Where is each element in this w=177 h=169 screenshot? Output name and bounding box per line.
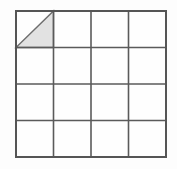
figure-container — [0, 0, 177, 169]
grid-cell — [129, 48, 167, 85]
grid-cell — [129, 84, 167, 121]
grid-cell — [54, 84, 92, 121]
grid-cell — [91, 121, 129, 158]
grid-cell — [129, 121, 167, 158]
grid-cell — [129, 11, 167, 48]
grid-cell — [91, 84, 129, 121]
grid-cell — [54, 48, 92, 85]
grid-cell — [91, 11, 129, 48]
grid-cell — [54, 121, 92, 158]
grid-cell — [54, 11, 92, 48]
grid-cell — [16, 84, 54, 121]
grid-figure — [0, 0, 177, 169]
grid-cell — [16, 48, 54, 85]
grid-cell — [91, 48, 129, 85]
grid-cell — [16, 121, 54, 158]
